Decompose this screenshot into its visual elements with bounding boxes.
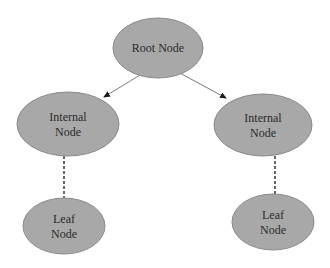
node-leaf-left-label-line1: Leaf: [53, 212, 75, 226]
node-leaf-left: Leaf Node: [23, 198, 105, 254]
node-leaf-right-label-line1: Leaf: [262, 208, 284, 222]
node-internal-left-shape: [17, 92, 119, 156]
node-internal-left-label-line2: Node: [55, 125, 81, 139]
node-leaf-left-shape: [23, 198, 105, 254]
node-root: Root Node: [113, 18, 203, 78]
node-leaf-right-shape: [232, 194, 314, 250]
node-internal-right-label-line1: Internal: [244, 111, 282, 125]
node-internal-right-shape: [214, 94, 312, 156]
node-leaf-right: Leaf Node: [232, 194, 314, 250]
diagram-svg: Root Node Internal Node Internal Node Le…: [0, 0, 330, 268]
node-internal-left-label-line1: Internal: [49, 110, 87, 124]
edge-root-to-internal-left: [104, 75, 140, 97]
node-leaf-left-label-line2: Node: [51, 227, 77, 241]
edge-root-to-internal-right: [178, 72, 226, 98]
node-leaf-right-label-line2: Node: [260, 223, 286, 237]
node-internal-right-label-line2: Node: [250, 126, 276, 140]
node-internal-left: Internal Node: [17, 92, 119, 156]
node-root-label: Root Node: [132, 41, 184, 55]
node-internal-right: Internal Node: [214, 94, 312, 156]
tree-diagram: Root Node Internal Node Internal Node Le…: [0, 0, 330, 268]
